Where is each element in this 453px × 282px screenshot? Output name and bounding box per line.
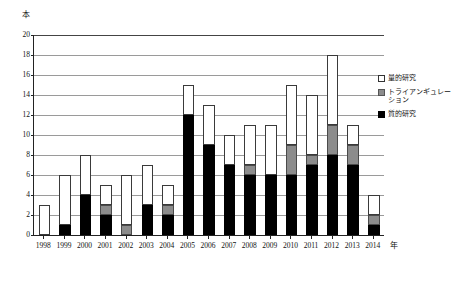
x-tick-mark	[84, 236, 85, 239]
x-tick-mark	[229, 236, 230, 239]
x-axis-tick-label: 2002	[115, 241, 136, 250]
bar-segment-quantitative	[183, 85, 195, 115]
x-tick-mark	[167, 236, 168, 239]
bar-segment-qualitative	[80, 195, 92, 235]
x-axis-slot: 2012	[321, 236, 342, 260]
legend-item[interactable]: 質的研究	[378, 110, 453, 119]
legend-item[interactable]: 量的研究	[378, 74, 453, 83]
stacked-bar[interactable]	[80, 155, 92, 235]
x-axis-tick-label: 2004	[157, 241, 178, 250]
legend-swatch-quant	[378, 75, 385, 82]
bar-segment-quantitative	[203, 105, 215, 145]
x-axis-slot: 2011	[301, 236, 322, 260]
x-axis-tick-label: 2007	[218, 241, 239, 250]
bar-segment-quantitative	[39, 205, 51, 235]
stacked-bar[interactable]	[121, 175, 133, 235]
x-axis-tick-label: 2001	[95, 241, 116, 250]
stacked-bar[interactable]	[142, 165, 154, 235]
stacked-bar[interactable]	[59, 175, 71, 235]
legend-swatch-tri	[378, 89, 385, 96]
bar-segment-qualitative	[244, 175, 256, 235]
bar-segment-triangulation	[347, 145, 359, 165]
bar-slot	[96, 35, 117, 235]
bar-segment-triangulation	[100, 205, 112, 215]
x-axis-tick-label: 2009	[260, 241, 281, 250]
x-axis: 1998199920002001200220032004200520062007…	[33, 236, 383, 260]
x-axis-slot: 2010	[280, 236, 301, 260]
bar-segment-quantitative	[286, 85, 298, 145]
stacked-bar[interactable]	[162, 185, 174, 235]
stacked-bar[interactable]	[100, 185, 112, 235]
bar-segment-quantitative	[306, 95, 318, 155]
bar-segment-triangulation	[162, 205, 174, 215]
x-axis-tick-label: 1999	[54, 241, 75, 250]
x-axis-slot: 2003	[136, 236, 157, 260]
x-tick-mark	[105, 236, 106, 239]
x-tick-mark	[373, 236, 374, 239]
bar-segment-qualitative	[203, 145, 215, 235]
x-axis-unit-label: 年	[390, 241, 398, 250]
bar-segment-qualitative	[59, 225, 71, 235]
x-axis-slot: 2004	[157, 236, 178, 260]
bar-slot	[158, 35, 179, 235]
x-axis-slot: 2007	[218, 236, 239, 260]
stacked-bar[interactable]	[368, 195, 380, 235]
stacked-bar[interactable]	[327, 55, 339, 235]
bar-slot	[178, 35, 199, 235]
x-axis-slot: 1999	[54, 236, 75, 260]
stacked-bar[interactable]	[306, 95, 318, 235]
stacked-bar[interactable]	[39, 205, 51, 235]
x-axis-slot: 1998	[33, 236, 54, 260]
legend-label: 質的研究	[388, 110, 416, 119]
x-axis-tick-label: 2003	[136, 241, 157, 250]
x-axis-slot: 2002	[115, 236, 136, 260]
y-axis-unit-label: 本	[22, 10, 30, 19]
y-axis-tick-label: 12	[23, 111, 35, 119]
bar-slot	[219, 35, 240, 235]
legend-label: 量的研究	[388, 74, 416, 83]
bar-segment-quantitative	[244, 125, 256, 165]
bar-segment-triangulation	[244, 165, 256, 175]
x-axis-tick-label: 2000	[74, 241, 95, 250]
stacked-bar[interactable]	[203, 105, 215, 235]
stacked-bar[interactable]	[224, 135, 236, 235]
legend-swatch-qual	[378, 111, 385, 118]
chart-legend: 量的研究トライアンギュレーション質的研究	[378, 74, 453, 123]
y-axis-tick-label: 10	[23, 131, 35, 139]
bar-slot	[199, 35, 220, 235]
bar-segment-qualitative	[347, 165, 359, 235]
bar-segment-quantitative	[224, 135, 236, 165]
x-axis-tick-label: 2008	[239, 241, 260, 250]
bar-segment-qualitative	[306, 165, 318, 235]
stacked-bar[interactable]	[347, 125, 359, 235]
stacked-bar[interactable]	[265, 125, 277, 235]
stacked-bar-chart: 本 20181614121086420 19981999200020012002…	[0, 0, 453, 282]
x-axis-slot: 2000	[74, 236, 95, 260]
bar-slot	[34, 35, 55, 235]
x-axis-tick-label: 2011	[301, 241, 322, 250]
stacked-bar[interactable]	[183, 85, 195, 235]
y-axis-tick-label: 14	[23, 91, 35, 99]
bar-slot	[322, 35, 343, 235]
bar-segment-qualitative	[100, 215, 112, 235]
y-axis-tick-label: 2	[26, 211, 34, 219]
x-axis-slot: 2006	[198, 236, 219, 260]
x-axis-tick-label: 2012	[321, 241, 342, 250]
x-axis-slot: 2013	[342, 236, 363, 260]
bar-segment-qualitative	[142, 205, 154, 235]
y-axis-tick-label: 8	[26, 151, 34, 159]
bar-slot	[364, 35, 385, 235]
bar-segment-qualitative	[162, 215, 174, 235]
bar-segment-quantitative	[162, 185, 174, 205]
bar-segment-triangulation	[286, 145, 298, 175]
legend-item[interactable]: トライアンギュレーション	[378, 88, 453, 105]
bar-segment-qualitative	[286, 175, 298, 235]
x-tick-mark	[352, 236, 353, 239]
bar-slot	[116, 35, 137, 235]
x-axis-slot: 2001	[95, 236, 116, 260]
bar-segment-quantitative	[142, 165, 154, 205]
bar-slot	[343, 35, 364, 235]
x-axis-tick-label: 2013	[342, 241, 363, 250]
stacked-bar[interactable]	[286, 85, 298, 235]
stacked-bar[interactable]	[244, 125, 256, 235]
